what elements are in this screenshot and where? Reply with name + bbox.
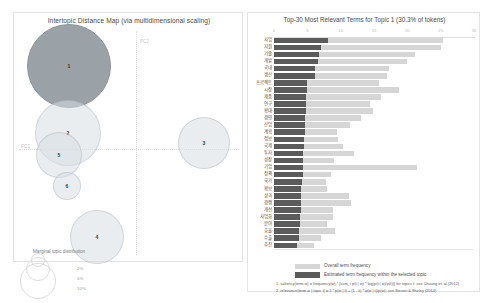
bar-row[interactable]: 확보 [274, 186, 474, 192]
bar-row[interactable]: 산업 [274, 122, 474, 128]
bar-topic-frequency [274, 151, 303, 157]
bar-row[interactable]: 사업 [274, 38, 474, 44]
bar-row[interactable]: 프로젝트 [274, 80, 474, 86]
bar-topic-frequency [274, 200, 301, 206]
topic-bubble-1[interactable] [27, 24, 111, 108]
bar-row[interactable]: 투자 [274, 151, 474, 157]
bar-row[interactable]: 정보 [274, 137, 474, 143]
term-label[interactable]: 계획 [264, 129, 272, 135]
term-label[interactable]: 정책 [264, 171, 272, 177]
term-label[interactable]: 확보 [264, 186, 272, 192]
bar-row[interactable]: 국제 [274, 144, 474, 150]
bar-row[interactable]: 개선 [274, 207, 474, 213]
bar-topic-frequency [274, 207, 301, 213]
term-label[interactable]: 시장 [264, 87, 272, 93]
bar-topic-frequency [274, 101, 306, 107]
legend-label-estimated: Estimated term frequency within the sele… [324, 272, 426, 278]
bar-row[interactable]: 분야 [274, 221, 474, 227]
bar-row[interactable]: 확대 [274, 108, 474, 114]
bar-topic-frequency [274, 137, 304, 143]
bar-row[interactable]: 추진 [274, 243, 474, 249]
bar-row[interactable]: 제품 [274, 94, 474, 100]
term-label[interactable]: 성과 [264, 193, 272, 199]
bar-row[interactable]: 사업화 [274, 214, 474, 220]
bar-topic-frequency [274, 186, 301, 192]
term-label[interactable]: 국가 [264, 178, 272, 184]
term-label[interactable]: 추진 [264, 242, 272, 248]
x-tick-label-20: 20 [405, 28, 410, 33]
legend-swatch-estimated [295, 272, 320, 278]
term-label[interactable]: 기업 [264, 164, 272, 170]
term-label[interactable]: 효율 [264, 228, 272, 234]
term-label[interactable]: 수출 [264, 235, 272, 241]
term-label[interactable]: 지원 [264, 44, 272, 50]
bar-row[interactable]: 효율 [274, 228, 474, 234]
x-tick-label-25: 25 [438, 28, 443, 33]
x-tick-label-15: 15 [372, 28, 377, 33]
term-label[interactable]: 분야 [264, 221, 272, 227]
bar-topic-frequency [274, 94, 306, 100]
term-label[interactable]: 프로젝트 [256, 80, 272, 86]
pyldavis-visualization: Intertopic Distance Map (via multidimens… [0, 0, 486, 303]
bar-topic-frequency [274, 59, 318, 65]
term-label[interactable]: 사업화 [260, 214, 272, 220]
bar-row[interactable]: 수출 [274, 235, 474, 241]
bar-row[interactable]: 지원 [274, 45, 474, 51]
term-label[interactable]: 국제 [264, 143, 272, 149]
bar-row[interactable]: 기업 [274, 165, 474, 171]
term-label[interactable]: 사업 [264, 37, 272, 43]
bar-row[interactable]: 계획 [274, 129, 474, 135]
term-label[interactable]: 경쟁 [264, 200, 272, 206]
x-tick-label-30: 30 [472, 28, 477, 33]
topic-bubble-5[interactable] [36, 132, 82, 178]
bar-row[interactable]: 경쟁 [274, 200, 474, 206]
term-label[interactable]: 정보 [264, 136, 272, 142]
marginal-percent-5: 5% [77, 276, 83, 281]
term-label[interactable]: 개선 [264, 207, 272, 213]
x-tick-label-10: 10 [338, 28, 343, 33]
bar-row[interactable]: 생산 [274, 73, 474, 79]
topic-bubble-6[interactable] [53, 172, 81, 200]
x-tick-label-5: 5 [306, 28, 308, 33]
intertopic-distance-map-panel[interactable]: Intertopic Distance Map (via multidimens… [13, 12, 243, 262]
top-terms-barchart-panel[interactable]: Top-30 Most Relevant Terms for Topic 1 (… [247, 12, 480, 292]
term-label[interactable]: 산업 [264, 122, 272, 128]
marginal-percent-10: 10% [77, 286, 86, 291]
bar-row[interactable]: 연구 [274, 101, 474, 107]
bar-topic-frequency [274, 122, 305, 128]
intertopic-map-title: Intertopic Distance Map (via multidimens… [14, 17, 244, 24]
bar-topic-frequency [274, 115, 305, 121]
bar-row[interactable]: 정책 [274, 172, 474, 178]
term-label[interactable]: 경영 [264, 115, 272, 121]
term-label[interactable]: 확대 [264, 108, 272, 114]
term-label[interactable]: 생산 [264, 72, 272, 78]
bar-topic-frequency [274, 193, 301, 199]
term-label[interactable]: 국내 [264, 65, 272, 71]
topic-bubble-3[interactable] [178, 117, 230, 169]
x-tick-mark-30 [474, 37, 475, 39]
term-label[interactable]: 기술 [264, 51, 272, 57]
term-label[interactable]: 제품 [264, 94, 272, 100]
marginal-percent-2: 2% [77, 266, 83, 271]
bar-topic-frequency [274, 221, 300, 227]
topic-bubble-4[interactable] [70, 210, 124, 264]
bar-row[interactable]: 국가 [274, 179, 474, 185]
bar-topic-frequency [274, 158, 303, 164]
bar-row[interactable]: 경영 [274, 115, 474, 121]
bar-row[interactable]: 국내 [274, 66, 474, 72]
bar-row[interactable]: 성장 [274, 158, 474, 164]
pc2-axis-label: PC2 [140, 39, 149, 44]
bar-topic-frequency [274, 129, 305, 135]
term-label[interactable]: 성장 [264, 157, 272, 163]
pc1-axis-label: PC1 [21, 144, 30, 149]
term-label[interactable]: 연구 [264, 101, 272, 107]
bar-row[interactable]: 기술 [274, 52, 474, 58]
term-label[interactable]: 투자 [264, 150, 272, 156]
term-label[interactable]: 개발 [264, 58, 272, 64]
bar-row[interactable]: 시장 [274, 87, 474, 93]
footnote-saliency: 1. saliency(term w) = frequency(w) * [su… [276, 281, 459, 286]
bar-row[interactable]: 성과 [274, 193, 474, 199]
bar-row[interactable]: 개발 [274, 59, 474, 65]
vertical-axis-line [136, 31, 137, 255]
bar-topic-frequency [274, 179, 302, 185]
